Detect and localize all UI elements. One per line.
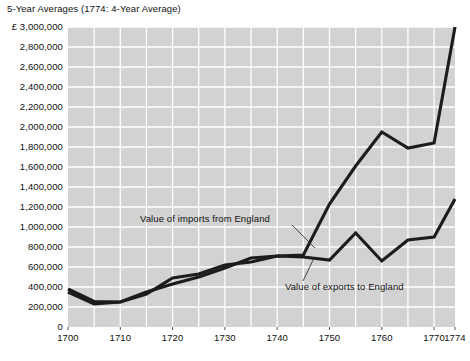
y-axis-tick-labels: 0200,000400,000600,000800,0001,000,0001,… [12,21,63,332]
y-axis-tick-label: 1,400,000 [20,181,63,192]
x-axis-tick-label: 1700 [57,332,79,343]
annotation-label-exports: Value of exports to England [285,281,404,292]
x-axis-tick-label: 1740 [266,332,288,343]
y-axis-tick-label: 0 [58,321,63,332]
x-axis-tick-label: 1774 [444,332,466,343]
x-axis-tick-label: 1750 [319,332,341,343]
y-axis-tick-label: 1,200,000 [20,201,63,212]
y-axis-tick-label: 1,000,000 [20,221,63,232]
y-axis-tick-label: 1,800,000 [20,141,63,152]
x-axis-tick-label: 1720 [162,332,184,343]
y-axis-tick-label: 200,000 [28,301,63,312]
x-axis-tick-labels: 170017101720173017401750176017701774 [57,327,466,343]
y-axis-tick-label: 2,400,000 [20,81,63,92]
x-axis-tick-label: 1710 [110,332,132,343]
y-axis-tick-label: 800,000 [28,241,63,252]
annotation-label-imports: Value of imports from England [140,213,270,224]
chart-figure: 5-Year Averages (1774: 4-Year Average) 0… [0,0,470,361]
y-axis-tick-label: 2,600,000 [20,61,63,72]
y-axis-tick-label: 2,000,000 [20,121,63,132]
x-axis-tick-label: 1760 [371,332,393,343]
x-axis-tick-label: 1730 [214,332,236,343]
y-axis-tick-label: 1,600,000 [20,161,63,172]
y-axis-tick-label: 2,200,000 [20,101,63,112]
y-axis-tick-label: £ 3,000,000 [12,21,63,32]
line-chart-plot: 0200,000400,000600,000800,0001,000,0001,… [0,0,470,361]
y-axis-tick-label: 600,000 [28,261,63,272]
x-axis-tick-label: 1770 [423,332,445,343]
y-axis-tick-label: 2,800,000 [20,41,63,52]
y-axis-tick-label: 400,000 [28,281,63,292]
